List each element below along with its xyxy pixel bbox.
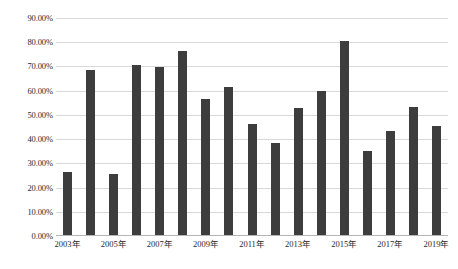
x-axis: 2003年2005年2007年2009年2011年2013年2015年2017年… bbox=[56, 239, 448, 253]
bar bbox=[109, 174, 118, 235]
bar bbox=[317, 91, 326, 235]
bar bbox=[409, 107, 418, 235]
y-axis-tick-label: 60.00% bbox=[1, 86, 53, 95]
y-axis-tick-label: 50.00% bbox=[1, 110, 53, 119]
y-axis-tick-label: 10.00% bbox=[1, 207, 53, 216]
x-axis-tick-label: 2017年 bbox=[367, 239, 413, 250]
bar bbox=[224, 87, 233, 235]
x-axis-tick-label: 2011年 bbox=[229, 239, 275, 250]
bars-group bbox=[56, 18, 448, 236]
bar bbox=[363, 151, 372, 235]
y-axis-tick-label: 40.00% bbox=[1, 135, 53, 144]
x-axis-tick-label: 2003年 bbox=[45, 239, 91, 250]
bar bbox=[248, 124, 257, 235]
x-axis-tick-label: 2005年 bbox=[91, 239, 137, 250]
bar bbox=[86, 70, 95, 235]
x-axis-tick-label: 2019年 bbox=[413, 239, 458, 250]
bar bbox=[178, 51, 187, 235]
y-axis-tick-label: 70.00% bbox=[1, 62, 53, 71]
bar bbox=[271, 143, 280, 235]
x-axis-tick-label: 2015年 bbox=[321, 239, 367, 250]
x-axis-line bbox=[56, 235, 448, 236]
bar bbox=[155, 67, 164, 235]
plot-area bbox=[56, 18, 448, 236]
bar bbox=[340, 41, 349, 235]
y-axis: 0.00%10.00%20.00%30.00%40.00%50.00%60.00… bbox=[0, 0, 56, 269]
bar bbox=[294, 108, 303, 235]
x-axis-tick-label: 2009年 bbox=[183, 239, 229, 250]
bar bbox=[201, 99, 210, 235]
x-axis-tick-label: 2013年 bbox=[275, 239, 321, 250]
y-axis-tick-label: 20.00% bbox=[1, 183, 53, 192]
y-axis-tick-label: 30.00% bbox=[1, 159, 53, 168]
bar bbox=[63, 172, 72, 235]
y-axis-tick-label: 90.00% bbox=[1, 14, 53, 23]
bar bbox=[132, 65, 141, 235]
bar-chart: 0.00%10.00%20.00%30.00%40.00%50.00%60.00… bbox=[0, 0, 458, 269]
bar bbox=[386, 131, 395, 235]
x-axis-tick-label: 2007年 bbox=[137, 239, 183, 250]
bar bbox=[432, 126, 441, 235]
y-axis-tick-label: 80.00% bbox=[1, 38, 53, 47]
